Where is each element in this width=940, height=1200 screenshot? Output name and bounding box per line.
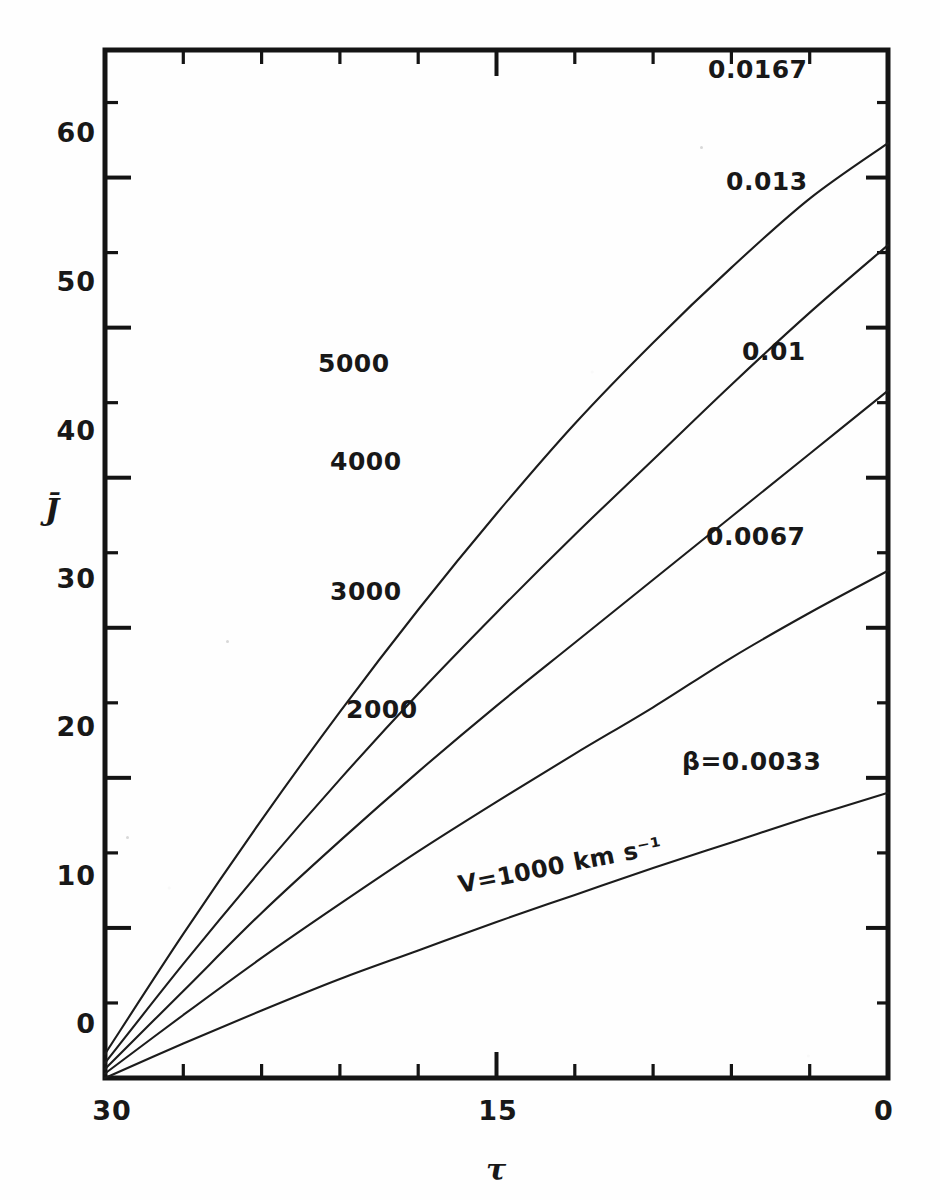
annotation-velocity-5000: 5000 — [318, 349, 390, 378]
scientific-figure: 60 50 40 30 20 10 0 30 15 0 J̄ τ 0.0167 … — [0, 0, 940, 1200]
label-layer: 60 50 40 30 20 10 0 30 15 0 J̄ τ 0.0167 … — [0, 0, 940, 1200]
y-axis-title: J̄ — [40, 492, 61, 527]
x-tick-label-0: 0 — [874, 1095, 894, 1126]
annotation-velocity-4000: 4000 — [330, 447, 402, 476]
annotation-beta-0167: 0.0167 — [708, 55, 807, 84]
annotation-beta-0067: 0.0067 — [706, 522, 805, 551]
annotation-beta-0033: β=0.0033 — [682, 747, 821, 776]
y-tick-label-30: 30 — [56, 563, 96, 594]
paper-speck — [126, 836, 129, 839]
paper-speck — [700, 146, 703, 149]
y-tick-label-10: 10 — [56, 860, 96, 891]
figure-canvas: 60 50 40 30 20 10 0 30 15 0 J̄ τ 0.0167 … — [0, 0, 940, 1200]
annotation-beta-013: 0.013 — [726, 167, 808, 196]
x-tick-label-30: 30 — [92, 1095, 132, 1126]
y-tick-label-60: 60 — [56, 117, 96, 148]
paper-speck — [226, 640, 229, 643]
annotation-velocity-3000: 3000 — [330, 577, 402, 606]
annotation-velocity-1000: V=1000 km s⁻¹ — [456, 832, 665, 899]
x-tick-label-15: 15 — [478, 1095, 518, 1126]
y-tick-label-40: 40 — [56, 415, 96, 446]
annotation-beta-01: 0.01 — [742, 337, 806, 366]
y-tick-label-20: 20 — [56, 711, 96, 742]
x-axis-title: τ — [486, 1152, 507, 1187]
y-tick-label-0: 0 — [76, 1008, 96, 1039]
y-tick-label-50: 50 — [56, 266, 96, 297]
annotation-velocity-2000: 2000 — [346, 695, 418, 724]
